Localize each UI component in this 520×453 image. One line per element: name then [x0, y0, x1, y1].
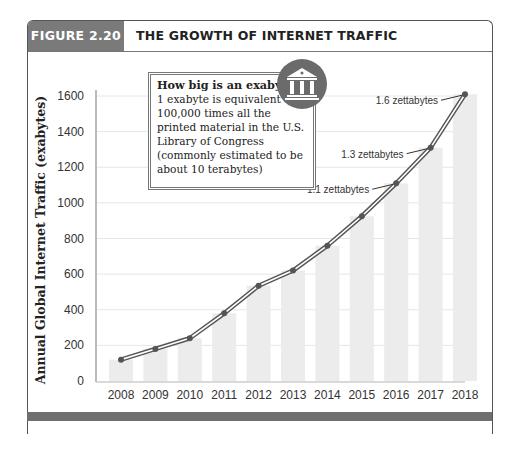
x-tick-label: 2008: [108, 388, 135, 402]
x-tick-label: 2010: [176, 388, 203, 402]
x-tick-label: 2017: [417, 388, 444, 402]
y-tick-label: 200: [64, 338, 84, 352]
y-tick-label: 1400: [57, 125, 84, 139]
x-tick-label: 2013: [280, 388, 307, 402]
data-point: [118, 357, 124, 363]
bank-building-icon: [277, 59, 327, 109]
zettabyte-annotation: 1.1 zettabytes: [307, 184, 369, 195]
figure-bottom-bar: [27, 412, 492, 421]
bar: [384, 183, 408, 381]
zettabyte-annotation: 1.6 zettabytes: [376, 95, 438, 106]
bar: [212, 313, 236, 381]
zettabyte-annotation: 1.3 zettabytes: [341, 149, 403, 160]
y-tick-label: 400: [64, 303, 84, 317]
data-point: [152, 346, 158, 352]
bar: [281, 271, 305, 381]
data-point: [393, 180, 399, 186]
y-tick-label: 1000: [57, 196, 84, 210]
x-tick-labels: 2008200920102011201220132014201520162017…: [108, 388, 479, 402]
data-point: [256, 283, 262, 289]
bar: [315, 246, 339, 381]
bar: [419, 148, 443, 381]
y-tick-labels: 02004006008001000120014001600: [57, 89, 84, 388]
bar: [109, 360, 133, 381]
x-tick-label: 2018: [452, 388, 479, 402]
data-point: [462, 91, 468, 97]
chart: 02004006008001000120014001600 2008200920…: [0, 0, 520, 453]
data-point: [187, 335, 193, 341]
y-axis-label: Annual Global Internet Traffic (exabytes…: [33, 96, 48, 385]
x-tick-label: 2014: [314, 388, 341, 402]
x-tick-label: 2015: [348, 388, 375, 402]
bar: [453, 94, 477, 381]
y-tick-label: 1200: [57, 160, 84, 174]
y-tick-label: 800: [64, 232, 84, 246]
y-tick-label: 600: [64, 267, 84, 281]
x-tick-label: 2009: [142, 388, 169, 402]
data-point: [290, 268, 296, 274]
y-tick-label: 1600: [57, 89, 84, 103]
data-point: [324, 243, 330, 249]
data-point: [359, 213, 365, 219]
bar: [247, 286, 271, 381]
data-point: [221, 310, 227, 316]
x-tick-label: 2011: [211, 388, 237, 402]
y-tick-label: 0: [77, 374, 84, 388]
bar: [350, 216, 374, 381]
x-tick-label: 2016: [383, 388, 410, 402]
bar: [178, 338, 202, 381]
data-point: [428, 145, 434, 151]
x-tick-label: 2012: [245, 388, 272, 402]
